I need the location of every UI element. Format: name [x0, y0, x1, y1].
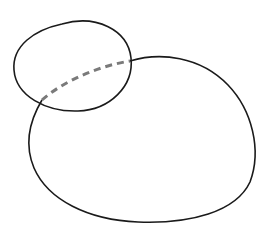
hidden-edge-dashed: [42, 61, 130, 100]
small-ellipse-outline: [14, 21, 131, 111]
overlap-diagram: [0, 0, 271, 237]
large-blob-outline: [29, 57, 255, 222]
